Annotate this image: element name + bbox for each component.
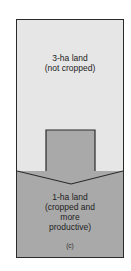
bottom-label-line3: more <box>17 212 123 222</box>
bottom-label-line2: (cropped and <box>17 202 123 212</box>
land-diagram-frame: 3-ha land (not cropped) 1-ha land (cropp… <box>16 19 124 258</box>
top-region-label: 3-ha land (not cropped) <box>17 53 123 73</box>
bottom-region-label: 1-ha land (cropped and more productive) <box>17 192 123 232</box>
bottom-label-line1: 1-ha land <box>17 192 123 202</box>
top-label-line1: 3-ha land <box>17 53 123 63</box>
top-label-line2: (not cropped) <box>17 63 123 73</box>
bottom-label-line4: productive) <box>17 222 123 232</box>
panel-label: (c) <box>17 242 123 249</box>
